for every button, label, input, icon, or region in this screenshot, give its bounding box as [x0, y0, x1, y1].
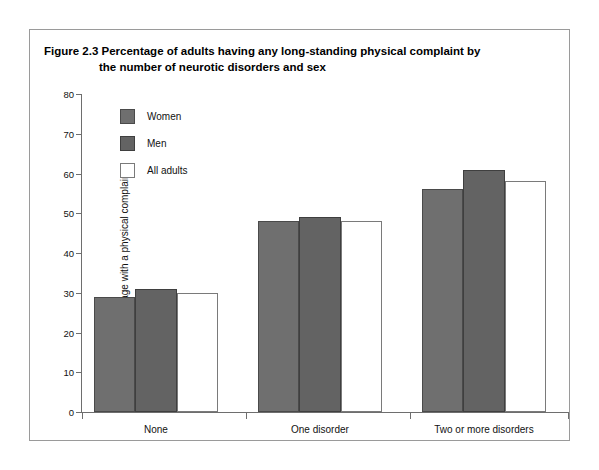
x-tick: [82, 412, 83, 419]
x-tick: [568, 412, 569, 419]
y-tick: [76, 372, 82, 373]
x-category-label: Two or more disorders: [434, 424, 533, 435]
y-tick-label: 30: [63, 287, 74, 298]
bar-women-2: [422, 189, 463, 412]
y-tick-label: 40: [63, 248, 74, 259]
legend-swatch-women: [120, 109, 135, 124]
legend-swatch-men: [120, 136, 135, 151]
y-tick-label: 80: [63, 89, 74, 100]
x-category-label: One disorder: [291, 424, 349, 435]
y-tick-label: 60: [63, 168, 74, 179]
y-tick-label: 0: [69, 407, 74, 418]
legend-item-women: Women: [120, 103, 188, 130]
y-tick-label: 20: [63, 327, 74, 338]
x-tick: [410, 412, 411, 419]
bar-all-1: [341, 221, 382, 412]
bar-women-1: [258, 221, 299, 412]
y-tick: [76, 134, 82, 135]
y-tick-label: 70: [63, 128, 74, 139]
figure-frame: Figure 2.3 Percentage of adults having a…: [29, 29, 570, 441]
y-tick: [76, 94, 82, 95]
legend-swatch-all: [120, 163, 135, 178]
y-tick-label: 50: [63, 208, 74, 219]
legend-label: All adults: [147, 165, 188, 176]
figure-title-line1: Percentage of adults having any long-sta…: [102, 45, 481, 57]
y-tick: [76, 333, 82, 334]
x-category-label: None: [144, 424, 168, 435]
bar-all-2: [505, 181, 546, 412]
bar-men-0: [135, 289, 176, 412]
figure-number: Figure 2.3: [44, 43, 98, 59]
bar-men-2: [463, 170, 504, 412]
y-tick-label: 10: [63, 367, 74, 378]
y-tick: [76, 174, 82, 175]
bar-all-0: [177, 293, 218, 412]
plot-area: Percentage with a physical complaint 010…: [81, 94, 568, 413]
figure-title-line2: the number of neurotic disorders and sex: [99, 59, 556, 75]
legend-item-men: Men: [120, 130, 188, 157]
legend-label: Women: [147, 111, 181, 122]
y-tick: [76, 293, 82, 294]
legend-item-all: All adults: [120, 157, 188, 184]
y-tick: [76, 213, 82, 214]
chart-legend: WomenMenAll adults: [120, 103, 188, 184]
bar-women-0: [94, 297, 135, 412]
legend-label: Men: [147, 138, 166, 149]
x-tick: [246, 412, 247, 419]
bar-men-1: [299, 217, 340, 412]
y-tick: [76, 253, 82, 254]
figure-title: Figure 2.3 Percentage of adults having a…: [44, 43, 556, 75]
